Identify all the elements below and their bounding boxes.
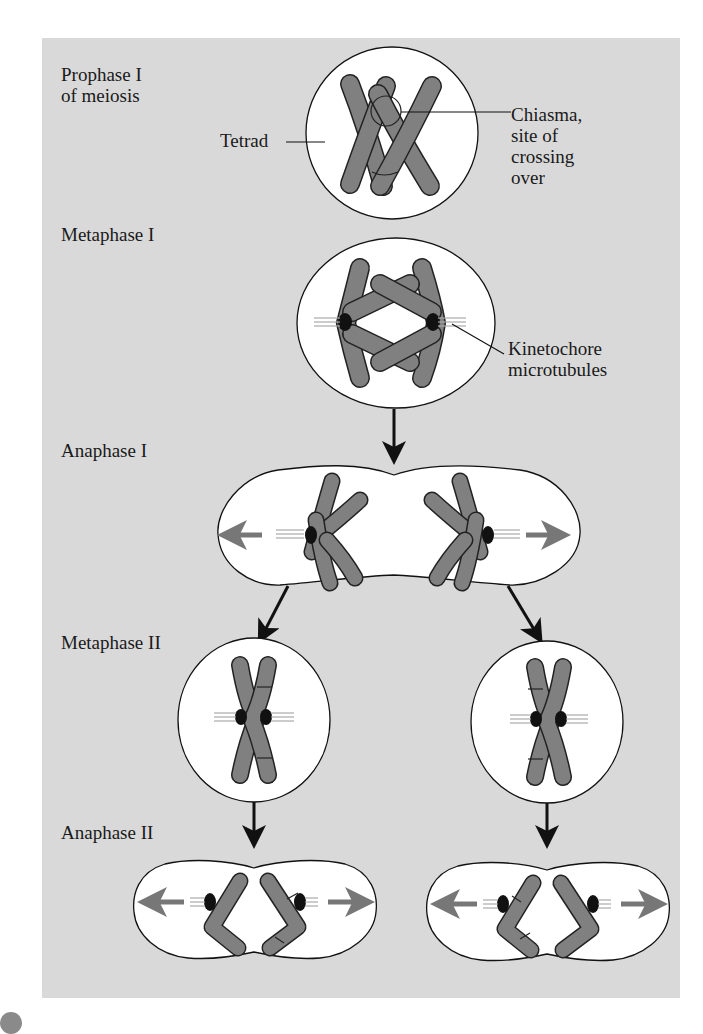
metaphase-2-cell-left xyxy=(178,638,330,802)
kinetochore-right xyxy=(426,313,440,331)
prophase-1-cell xyxy=(286,47,511,219)
metaphase-1-cell xyxy=(297,238,504,408)
metaphase-2-cell-right xyxy=(471,641,623,803)
anaphase-2-cell-left xyxy=(134,861,377,959)
anaphase-1-cell xyxy=(218,466,580,585)
anaphase-2-cell-right xyxy=(427,863,670,961)
corner-circle-marker xyxy=(0,1012,22,1034)
arrow-to-metaphase-2-right xyxy=(508,586,538,636)
arrow-to-metaphase-2-left xyxy=(262,586,288,636)
kinetochore-left xyxy=(338,313,352,331)
